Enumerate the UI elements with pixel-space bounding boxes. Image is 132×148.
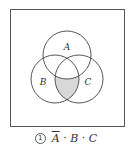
expr-sep-2: · — [82, 132, 86, 145]
shaded-region — [0, 0, 132, 148]
caption-expression: A · B · C — [52, 132, 97, 145]
expr-c: C — [89, 132, 97, 145]
set-b-label: B — [39, 77, 47, 87]
expr-not-a: A — [52, 132, 60, 145]
caption: 1 A · B · C — [0, 130, 132, 146]
choice-number: 1 — [35, 133, 46, 144]
expr-b: B — [70, 132, 78, 145]
venn-diagram: A B C — [0, 0, 132, 148]
expr-sep-1: · — [63, 132, 67, 145]
set-c-label: C — [85, 77, 92, 87]
set-a-label: A — [63, 42, 71, 52]
